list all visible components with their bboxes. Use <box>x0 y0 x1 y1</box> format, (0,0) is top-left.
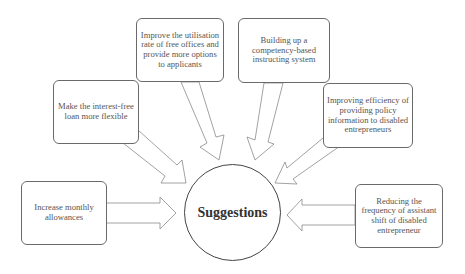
arrow-assistant-shift <box>287 199 355 231</box>
center-suggestions-circle: Suggestions <box>184 164 281 261</box>
node-label: Improve the utilisation rate of free off… <box>140 31 220 69</box>
center-label: Suggestions <box>197 205 267 221</box>
node-increase-allowances: Increase monthly allowances <box>21 181 107 245</box>
node-flexible-loan: Make the interest-free loan more flexibl… <box>53 80 139 144</box>
node-label: Reducing the frequency of assistant shif… <box>359 197 439 235</box>
arrow-increase-allowances <box>106 197 176 229</box>
node-policy-information: Improving efficiency of providing policy… <box>323 83 413 148</box>
node-label: Improving efficiency of providing policy… <box>327 96 409 134</box>
node-label: Building up a competency-based instructi… <box>242 36 326 65</box>
node-assistant-shift: Reducing the frequency of assistant shif… <box>355 184 443 248</box>
arrow-free-offices <box>181 82 224 160</box>
node-instructing-system: Building up a competency-based instructi… <box>238 18 330 83</box>
node-label: Make the interest-free loan more flexibl… <box>57 102 135 121</box>
arrow-instructing-system <box>247 83 283 160</box>
node-label: Increase monthly allowances <box>25 203 103 222</box>
node-free-offices: Improve the utilisation rate of free off… <box>136 18 224 82</box>
